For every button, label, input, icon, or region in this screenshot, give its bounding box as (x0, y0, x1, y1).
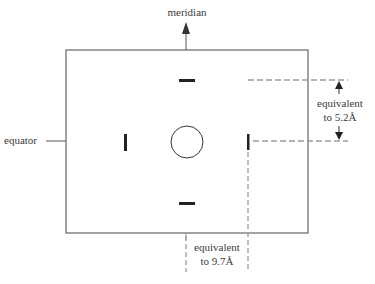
meridian-arrow-icon (182, 22, 190, 34)
meridional-reflection-bottom (179, 202, 195, 205)
annotation-5-2-line1: equivalent (310, 97, 370, 110)
annotation-9-7-line1: equivalent (188, 241, 246, 254)
meridional-reflection-top (179, 79, 195, 82)
equator-label: equator (4, 134, 46, 147)
equatorial-reflection-left (124, 134, 127, 151)
beam-stop-circle (171, 126, 203, 158)
equatorial-reflection-right (247, 134, 250, 150)
arrow-down-icon (335, 132, 343, 140)
meridian-label: meridian (161, 6, 213, 19)
arrow-up-icon (335, 81, 343, 89)
annotation-9-7-line2: to 9.7Å (188, 255, 246, 268)
annotation-5-2-line2: to 5.2Å (310, 111, 370, 124)
